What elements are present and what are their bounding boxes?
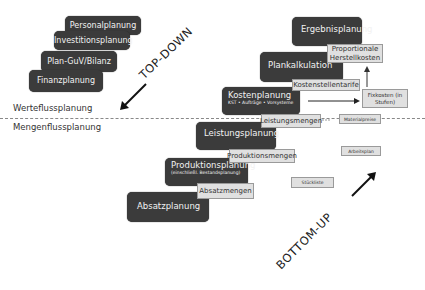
arrow-up-right-icon bbox=[349, 170, 379, 200]
connector-arrows bbox=[0, 0, 425, 290]
